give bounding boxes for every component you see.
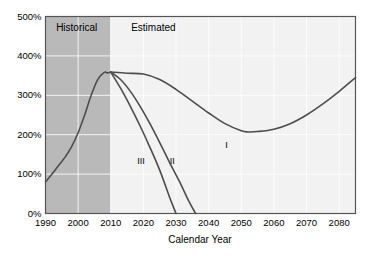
y-axis-tick-label: 200% [17, 129, 41, 140]
x-axis-tick-label: 1990 [30, 217, 62, 228]
x-axis-tick-label: 2000 [62, 217, 94, 228]
x-axis-tick-label: 2020 [127, 217, 159, 228]
y-axis-tick-label: 300% [17, 89, 41, 100]
y-axis-tick-label: 400% [17, 50, 41, 61]
y-axis-tick-label: 500% [17, 11, 41, 22]
x-axis-tick-label: 2040 [193, 217, 225, 228]
region-label-estimated: Estimated [131, 22, 175, 33]
x-axis-tick-label: 2060 [258, 217, 290, 228]
x-axis-title: Calendar Year [14, 234, 372, 245]
y-axis-tick-label: 100% [17, 168, 41, 179]
x-axis-tick-label: 2050 [225, 217, 257, 228]
x-axis-tick-label: 2010 [95, 217, 127, 228]
chart-container: 0%100%200%300%400%500%199020002010202020… [0, 0, 372, 260]
curve-label-i: I [225, 140, 228, 150]
x-axis-tick-label: 2070 [291, 217, 323, 228]
curve-label-iii: III [137, 156, 145, 166]
x-axis-tick-label: 2030 [160, 217, 192, 228]
region-label-historical: Historical [56, 22, 97, 33]
curve-label-ii: II [170, 156, 175, 166]
region-estimated [111, 17, 356, 214]
x-axis-tick-label: 2080 [323, 217, 355, 228]
